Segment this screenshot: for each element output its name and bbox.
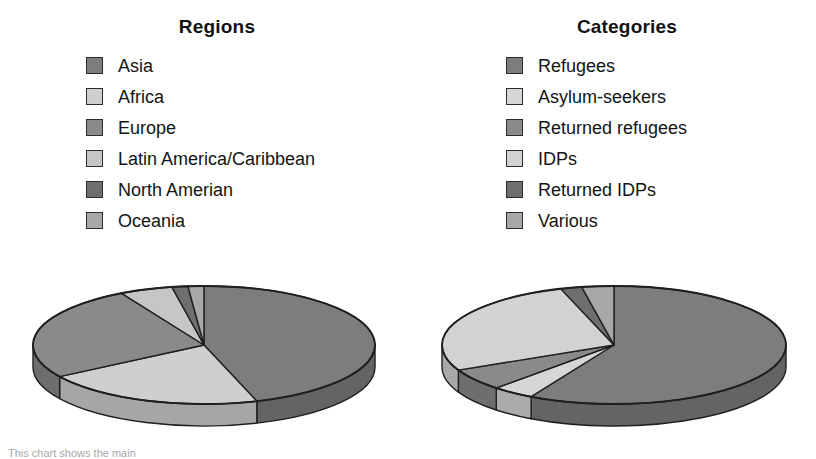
- legend-item-oceania[interactable]: Oceania: [86, 205, 315, 236]
- categories-pie-svg: [408, 262, 816, 437]
- footnote-text: This chart shows the main: [8, 447, 136, 459]
- legend-swatch-icon: [86, 212, 103, 229]
- legend-swatch-icon: [86, 88, 103, 105]
- categories-title: Categories: [408, 16, 816, 38]
- legend-item-returned-idps[interactable]: Returned IDPs: [506, 174, 687, 205]
- legend-item-label: Various: [538, 212, 598, 230]
- legend-swatch-icon: [506, 57, 523, 74]
- legend-item-label: Asia: [118, 57, 153, 75]
- legend-swatch-icon: [506, 212, 523, 229]
- legend-item-asia[interactable]: Asia: [86, 50, 315, 81]
- legend-item-asylum-seekers[interactable]: Asylum-seekers: [506, 81, 687, 112]
- regions-pie-svg: [0, 262, 408, 437]
- legend-item-label: Europe: [118, 119, 176, 137]
- legend-item-label: Asylum-seekers: [538, 88, 666, 106]
- legend-swatch-icon: [86, 181, 103, 198]
- legend-item-label: North Amerian: [118, 181, 233, 199]
- legend-item-refugees[interactable]: Refugees: [506, 50, 687, 81]
- legend-swatch-icon: [506, 88, 523, 105]
- categories-legend: Refugees Asylum-seekers Returned refugee…: [506, 50, 687, 236]
- legend-swatch-icon: [506, 150, 523, 167]
- legend-item-label: Oceania: [118, 212, 185, 230]
- legend-item-idps[interactable]: IDPs: [506, 143, 687, 174]
- legend-item-label: IDPs: [538, 150, 577, 168]
- legend-item-label: Refugees: [538, 57, 615, 75]
- categories-pie-chart: [408, 262, 816, 437]
- regions-pie-slices: [33, 286, 375, 426]
- legend-item-returned-refugees[interactable]: Returned refugees: [506, 112, 687, 143]
- legend-swatch-icon: [86, 57, 103, 74]
- legend-swatch-icon: [86, 150, 103, 167]
- regions-pie-chart: [0, 262, 408, 437]
- regions-title: Regions: [0, 16, 408, 38]
- legend-item-europe[interactable]: Europe: [86, 112, 315, 143]
- legend-item-label: Returned refugees: [538, 119, 687, 137]
- legend-item-africa[interactable]: Africa: [86, 81, 315, 112]
- legend-swatch-icon: [506, 119, 523, 136]
- regions-panel: Regions Asia Africa Europe Latin America…: [0, 0, 408, 456]
- categories-pie-slices: [442, 286, 786, 426]
- legend-swatch-icon: [86, 119, 103, 136]
- legend-item-various[interactable]: Various: [506, 205, 687, 236]
- legend-item-latin-america-caribbean[interactable]: Latin America/Caribbean: [86, 143, 315, 174]
- legend-item-north-amerian[interactable]: North Amerian: [86, 174, 315, 205]
- legend-item-label: Africa: [118, 88, 164, 106]
- categories-panel: Categories Refugees Asylum-seekers Retur…: [408, 0, 816, 456]
- legend-item-label: Latin America/Caribbean: [118, 150, 315, 168]
- legend-item-label: Returned IDPs: [538, 181, 656, 199]
- regions-legend: Asia Africa Europe Latin America/Caribbe…: [86, 50, 315, 236]
- legend-swatch-icon: [506, 181, 523, 198]
